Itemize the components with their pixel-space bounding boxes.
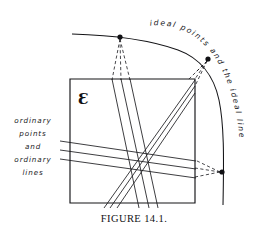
figure-container: Ɛ ideal points and the ideal line ordina… (0, 0, 268, 231)
lower-right-ideal-point (219, 169, 224, 174)
ordinary-label-line-1: ordinary (14, 116, 51, 125)
dashed-rays-lower-right (195, 160, 220, 177)
ordinary-label-line-4: ordinary (14, 155, 51, 164)
line-family-a (112, 79, 158, 208)
dashed-rays-top-left (112, 39, 130, 80)
line-family-c (60, 141, 196, 178)
dashed-rays-upper-right (188, 61, 207, 86)
figure-caption: FIGURE 14.1. (101, 213, 167, 224)
ordinary-label: ordinary points and ordinary lines (14, 116, 51, 177)
ordinary-label-line-3: and (25, 142, 41, 151)
ordinary-label-line-2: points (18, 129, 46, 138)
plane-symbol: Ɛ (78, 90, 89, 108)
ordinary-label-line-5: lines (22, 168, 43, 177)
top-left-ideal-point (117, 34, 122, 39)
ideal-points (117, 34, 224, 174)
upper-right-ideal-point (205, 56, 210, 61)
line-family-b (104, 80, 195, 208)
projective-plane-diagram: Ɛ ideal points and the ideal line ordina… (0, 0, 268, 231)
ideal-line (72, 34, 224, 205)
